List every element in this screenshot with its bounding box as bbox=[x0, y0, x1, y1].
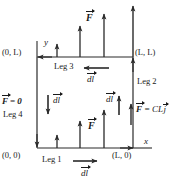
leg-3-force-arrows bbox=[57, 14, 104, 57]
leg-1-force-text: F bbox=[88, 120, 95, 131]
leg-4-force-equals: = bbox=[10, 96, 15, 106]
dl-direction-arrows bbox=[48, 68, 119, 161]
leg-2-dl-text: dl bbox=[106, 94, 113, 104]
leg-4-dl-label: dl bbox=[53, 95, 60, 105]
corner-label-top-right: (L, L) bbox=[135, 48, 155, 57]
leg-3-dl-label: dl bbox=[87, 74, 94, 84]
x-axis-label: x bbox=[144, 137, 148, 146]
leg-4-label: Leg 4 bbox=[3, 110, 23, 119]
leg-2-force-unit-vector: j bbox=[164, 105, 167, 114]
corner-label-bottom-right: (L, 0) bbox=[112, 151, 131, 160]
leg-1-dl-text: dl bbox=[81, 168, 88, 178]
leg-4-force-symbol: F bbox=[2, 96, 8, 106]
leg-2-force-label: F=CLj bbox=[136, 104, 166, 114]
leg-1-force-arrows bbox=[57, 110, 104, 148]
physics-force-diagram: y x (0, L) (L, L) (0, 0) (L, 0) Leg 1 Le… bbox=[0, 0, 188, 180]
leg-3-dl-text: dl bbox=[87, 74, 94, 84]
leg-1-dl-label: dl bbox=[81, 168, 88, 178]
leg-2-force-coefficient: CL bbox=[152, 104, 163, 114]
leg-3-force-label: F bbox=[86, 12, 93, 23]
corner-label-top-left: (0, L) bbox=[2, 48, 21, 57]
y-axis-label: y bbox=[44, 38, 48, 47]
leg-3-force-text: F bbox=[86, 12, 93, 23]
leg-2-label: Leg 2 bbox=[137, 77, 157, 86]
leg-3-label: Leg 3 bbox=[54, 62, 74, 71]
leg-2-force-symbol: F bbox=[136, 104, 142, 114]
leg-4-force-label: F=0 bbox=[2, 96, 22, 106]
corner-label-origin: (0, 0) bbox=[2, 151, 20, 160]
leg-1-force-label: F bbox=[88, 120, 95, 131]
leg-2-dl-label: dl bbox=[106, 94, 113, 104]
leg-4-dl-text: dl bbox=[53, 95, 60, 105]
leg-1-label: Leg 1 bbox=[42, 155, 62, 164]
leg-2-force-equals: = bbox=[144, 104, 150, 114]
leg-4-force-value: 0 bbox=[17, 96, 22, 106]
diagram-vector-canvas bbox=[0, 0, 188, 180]
